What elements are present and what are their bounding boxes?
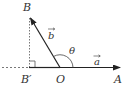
label-point-b-prime: B′ xyxy=(20,73,32,86)
label-point-a: A xyxy=(113,73,122,86)
label-vector-b: b xyxy=(48,30,54,41)
label-point-b: B xyxy=(22,1,31,14)
vector-projection-diagram: B B′ O A θ a b xyxy=(0,0,134,91)
vector-b-arrow xyxy=(31,18,61,68)
right-angle-mark xyxy=(30,61,36,67)
label-angle-theta: θ xyxy=(69,45,75,56)
diagram-canvas: B B′ O A θ a b xyxy=(0,0,134,91)
label-vector-a: a xyxy=(94,56,100,67)
label-point-o: O xyxy=(56,73,65,86)
